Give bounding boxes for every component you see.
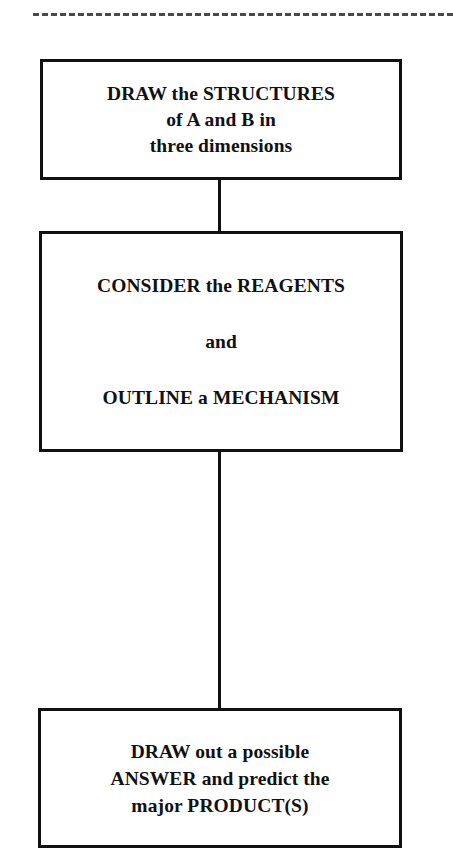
flow-node-structures-line-2: of A and B in xyxy=(166,107,276,133)
flow-node-mechanism: CONSIDER the REAGENTS and OUTLINE a MECH… xyxy=(39,231,403,452)
dashed-separator-rule xyxy=(33,13,453,16)
flow-node-mechanism-line-2: and xyxy=(205,331,237,353)
flow-node-structures: DRAW the STRUCTURES of A and B in three … xyxy=(40,59,402,180)
flow-node-answer: DRAW out a possible ANSWER and predict t… xyxy=(38,708,402,848)
flow-node-answer-line-1: DRAW out a possible xyxy=(131,738,310,765)
flow-node-structures-line-1: DRAW the STRUCTURES xyxy=(107,81,335,107)
flow-node-answer-line-2: ANSWER and predict the xyxy=(110,765,329,792)
connector-mechanism-to-answer xyxy=(218,450,221,710)
flow-node-mechanism-line-1: CONSIDER the REAGENTS xyxy=(97,275,345,297)
flow-node-answer-line-3: major PRODUCT(S) xyxy=(131,792,308,819)
connector-structures-to-mechanism xyxy=(218,179,221,233)
flow-node-structures-line-3: three dimensions xyxy=(150,133,293,159)
flow-node-mechanism-line-3: OUTLINE a MECHANISM xyxy=(102,387,339,409)
